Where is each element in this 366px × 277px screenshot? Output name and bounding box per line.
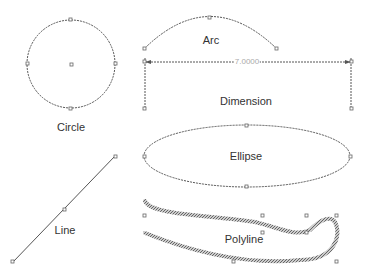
circle-shape[interactable]: [26, 18, 117, 110]
dimension-label: Dimension: [220, 95, 272, 107]
ellipse-label: Ellipse: [230, 150, 262, 162]
arc-label: Arc: [203, 34, 220, 46]
polyline-shape[interactable]: [143, 201, 338, 263]
dimension-value: 7.0000: [234, 57, 260, 66]
line-label: Line: [55, 224, 76, 236]
line-shape[interactable]: [11, 155, 117, 263]
circle-label: Circle: [57, 121, 85, 133]
polyline-label: Polyline: [225, 233, 264, 245]
